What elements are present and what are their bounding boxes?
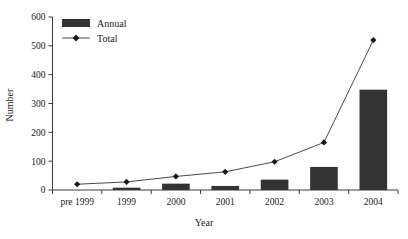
bar-2002 xyxy=(261,180,289,190)
bar-2004 xyxy=(360,90,388,190)
legend-label-total: Total xyxy=(97,33,118,44)
total-marker-2001 xyxy=(222,169,228,175)
bar-series-annual xyxy=(113,90,387,190)
y-tick-label: 300 xyxy=(31,99,46,109)
annual-total-chart: 0100200300400500600 pre 1999199920002001… xyxy=(0,0,408,239)
bar-1999 xyxy=(113,188,141,190)
legend-label-annual: Annual xyxy=(97,18,127,29)
line-markers-total xyxy=(74,37,376,187)
y-axis-ticks: 0100200300400500600 xyxy=(31,12,52,195)
x-tick-label: pre 1999 xyxy=(60,197,94,207)
total-marker-2002 xyxy=(272,159,278,165)
x-axis-title: Year xyxy=(195,217,214,228)
x-tick-label: 2000 xyxy=(166,197,185,207)
bar-2003 xyxy=(310,167,338,190)
total-marker-2004 xyxy=(370,37,376,43)
total-marker-2003 xyxy=(321,139,327,145)
y-axis-title: Number xyxy=(4,88,15,121)
x-tick-label: 1999 xyxy=(117,197,136,207)
x-axis-tick-labels: pre 1999199920002001200220032004 xyxy=(60,197,383,207)
y-tick-label: 400 xyxy=(31,70,46,80)
x-tick-label: 2002 xyxy=(265,197,284,207)
y-tick-label: 100 xyxy=(31,157,46,167)
bar-2001 xyxy=(211,186,239,190)
y-tick-label: 200 xyxy=(31,128,46,138)
total-line-path xyxy=(77,40,373,184)
x-axis-ticks xyxy=(53,190,399,194)
total-marker-pre-1999 xyxy=(74,181,80,187)
bar-2000 xyxy=(162,184,190,190)
y-tick-label: 0 xyxy=(41,185,46,195)
legend-swatch-annual xyxy=(62,19,90,27)
line-series-total xyxy=(77,40,373,184)
legend-swatch-total-marker xyxy=(73,34,80,41)
x-tick-label: 2003 xyxy=(314,197,333,207)
total-marker-2000 xyxy=(173,173,179,179)
chart-legend: Annual Total xyxy=(62,18,127,44)
y-tick-label: 600 xyxy=(31,12,46,22)
x-tick-label: 2004 xyxy=(364,197,383,207)
chart-container: 0100200300400500600 pre 1999199920002001… xyxy=(0,0,408,239)
x-tick-label: 2001 xyxy=(216,197,235,207)
y-tick-label: 500 xyxy=(31,41,46,51)
total-marker-1999 xyxy=(123,179,129,185)
